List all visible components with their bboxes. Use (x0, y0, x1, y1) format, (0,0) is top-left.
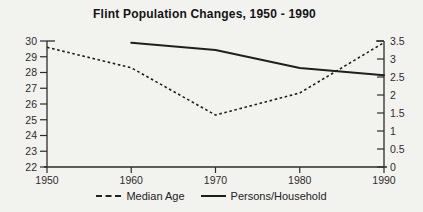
legend-label-persons-household: Persons/Household (231, 190, 327, 202)
persons-household-line (131, 43, 384, 75)
right-axis-tick-label: 0 (390, 161, 396, 173)
left-axis-tick-label: 30 (25, 35, 37, 47)
left-axis-tick-label: 27 (25, 82, 37, 94)
plot-area: 22232425262728293000.511.522.533.5195019… (0, 0, 423, 212)
x-axis-tick-label: 1990 (372, 174, 396, 186)
chart: Flint Population Changes, 1950 - 1990 22… (0, 0, 423, 212)
x-axis-tick-label: 1980 (288, 174, 312, 186)
persons-household-line-sample (201, 195, 226, 197)
right-axis-tick-label: 2 (390, 89, 396, 101)
x-axis-tick-label: 1950 (35, 174, 59, 186)
right-axis-tick-label: 1 (390, 125, 396, 137)
right-axis-tick-label: 1.5 (390, 107, 405, 119)
right-axis-tick-label: 2.5 (390, 71, 405, 83)
left-axis-tick-label: 24 (25, 129, 37, 141)
legend-label-median-age: Median Age (126, 190, 184, 202)
left-axis-tick-label: 29 (25, 51, 37, 63)
left-axis-tick-label: 23 (25, 145, 37, 157)
right-axis-tick-label: 0.5 (390, 143, 405, 155)
right-axis-tick-label: 3.5 (390, 35, 405, 47)
left-axis-tick-label: 28 (25, 66, 37, 78)
legend: Median Age Persons/Household (0, 187, 423, 205)
median-age-line (47, 43, 384, 115)
x-axis-tick-label: 1970 (204, 174, 228, 186)
left-axis-tick-label: 25 (25, 114, 37, 126)
x-axis-tick-label: 1960 (120, 174, 144, 186)
left-axis-tick-label: 26 (25, 98, 37, 110)
left-axis-tick-label: 22 (25, 161, 37, 173)
right-axis-tick-label: 3 (390, 53, 396, 65)
median-age-line-sample (96, 195, 121, 197)
